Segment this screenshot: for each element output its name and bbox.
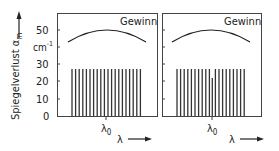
x-axis-arrow-icon (128, 137, 152, 142)
laser-mode-diagram: Spiegelverlust αm 50 cm-1 30 20 10 0 Gew… (0, 0, 279, 151)
gain-curve (68, 30, 146, 42)
x-axis-label: λ (117, 133, 123, 146)
x-axis-arrow-icon (240, 137, 264, 142)
lambda0-label: λ0 (207, 122, 218, 137)
mode-lines (72, 69, 140, 116)
svg-text:Spiegelverlust αm: Spiegelverlust αm (9, 33, 24, 120)
tick-30: 30 (36, 58, 49, 71)
gain-curve (172, 30, 250, 42)
gain-label: Gewinn (120, 15, 157, 28)
gain-label: Gewinn (224, 15, 261, 28)
right-panel: Gewinn λ0 λ (162, 14, 264, 147)
y-axis-label: Spiegelverlust αm (9, 33, 24, 120)
left-panel: Gewinn λ0 λ (57, 14, 158, 147)
mode-lines (177, 69, 244, 116)
x-axis-label: λ (229, 133, 235, 146)
tick-10: 10 (36, 93, 49, 106)
tick-20: 20 (36, 75, 49, 88)
tick-0: 0 (43, 110, 49, 123)
y-tick-labels: 50 cm-1 30 20 10 0 (33, 24, 53, 123)
unit-label: cm-1 (33, 40, 53, 53)
tick-50: 50 (36, 24, 49, 37)
lambda0-label: λ0 (101, 122, 112, 137)
